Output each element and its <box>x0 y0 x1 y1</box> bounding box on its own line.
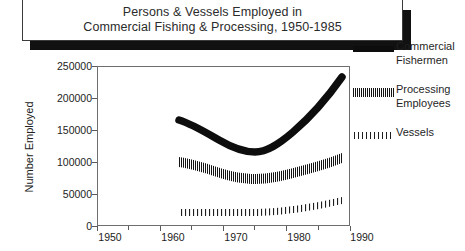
x-tick-label: 1980 <box>275 231 323 243</box>
x-tick-mark-minor <box>191 226 192 230</box>
chart-title-line-2: Commercial Fishing & Processing, 1950-19… <box>83 20 341 35</box>
chart-title-line-1: Persons & Vessels Employed in <box>123 5 302 20</box>
chart-title-box: Persons & Vessels Employed in Commercial… <box>22 0 403 41</box>
dense-hatch-band-key-icon <box>352 87 396 99</box>
legend-item-processing-employees: Processing Employees <box>352 83 465 110</box>
legend-label: Commercial Fishermen <box>396 40 455 67</box>
x-tick-mark-minor <box>254 226 255 230</box>
x-tick-label: 1950 <box>86 231 134 243</box>
legend-label-line-2: Employees <box>396 97 450 111</box>
chart-legend: Commercial Fishermen Processing Employee… <box>352 40 465 158</box>
x-tick-mark-minor <box>318 226 319 230</box>
x-tick-label: 1970 <box>212 231 260 243</box>
sparse-dotted-line-key-icon <box>352 130 396 142</box>
x-tick-mark-minor <box>128 226 129 230</box>
legend-label-line-1: Processing <box>396 83 450 97</box>
legend-label: Vessels <box>396 126 434 140</box>
legend-label-line-2: Fishermen <box>396 54 455 68</box>
legend-label-line-1: Commercial <box>396 40 455 54</box>
thick-solid-line-key-icon <box>352 44 396 56</box>
x-tick-label: 1990 <box>338 231 386 243</box>
legend-item-commercial-fishermen: Commercial Fishermen <box>352 40 465 67</box>
legend-label: Processing Employees <box>396 83 450 110</box>
legend-label-line-1: Vessels <box>396 126 434 140</box>
x-tick-label: 1960 <box>149 231 197 243</box>
legend-item-vessels: Vessels <box>352 126 465 142</box>
